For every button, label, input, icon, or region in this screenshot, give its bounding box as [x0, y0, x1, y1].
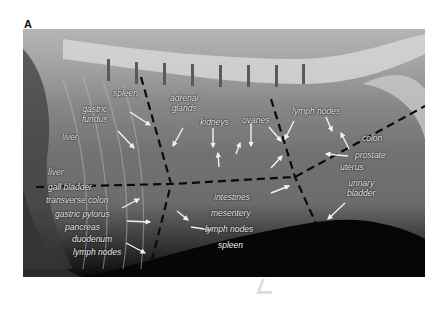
label-uterus: uterus [340, 163, 364, 172]
label-ovaries: ovaries [242, 116, 269, 125]
label-transverse-colon: transverse colon [46, 196, 108, 205]
label-mesentery: mesentery [211, 209, 251, 218]
label-liver-upper: liver [62, 133, 78, 142]
orientation-marker [256, 279, 276, 294]
label-lymph-nodes-left: lymph nodes [73, 248, 121, 257]
label-urinary-bladder: urinary bladder [347, 178, 375, 198]
label-gall-bladder: gall bladder [48, 183, 92, 192]
label-lymph-nodes-mid: lymph nodes [205, 225, 253, 234]
label-kidneys: kidneys [200, 118, 229, 127]
radiograph: spleen adrenal glands gastric fundus kid… [23, 29, 425, 277]
label-liver-lower: liver [48, 168, 64, 177]
label-spleen-top: spleen [113, 89, 138, 98]
label-adrenal-glands: adrenal glands [170, 93, 198, 113]
label-lymph-nodes-top: lymph nodes [292, 107, 340, 116]
label-pancreas: pancreas [65, 223, 100, 232]
label-spleen-bottom: spleen [218, 241, 243, 250]
label-gastric-fundus: gastric fundus [82, 104, 108, 124]
label-prostate: prostate [355, 151, 386, 160]
label-colon: colon [362, 134, 382, 143]
label-gastric-pylorus: gastric pylorus [55, 210, 110, 219]
label-duodenum: duodenum [72, 235, 112, 244]
label-intestines: intestines [214, 193, 250, 202]
